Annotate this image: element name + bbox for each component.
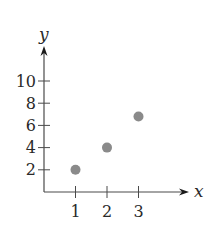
tick-labels: 123246810	[16, 72, 144, 222]
y-tick-label: 10	[16, 72, 36, 91]
data-point	[71, 165, 81, 175]
y-tick-label: 2	[26, 160, 36, 179]
data-point	[102, 143, 112, 153]
y-axis-label: y	[38, 24, 49, 44]
chart-canvas: 123246810 x y	[0, 0, 221, 241]
x-axis-label: x	[194, 181, 204, 201]
y-tick-label: 6	[26, 116, 36, 135]
scatter-chart: 123246810 x y	[0, 0, 221, 241]
x-tick-label: 1	[70, 202, 80, 221]
data-point	[134, 112, 144, 122]
tick-marks	[38, 81, 139, 198]
x-tick-label: 3	[133, 202, 143, 221]
y-tick-label: 4	[26, 138, 36, 157]
axes	[41, 46, 190, 196]
x-tick-label: 2	[102, 202, 112, 221]
data-points	[71, 112, 144, 175]
y-tick-label: 8	[26, 94, 36, 113]
